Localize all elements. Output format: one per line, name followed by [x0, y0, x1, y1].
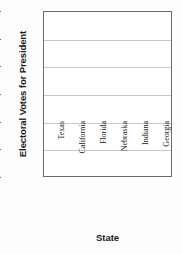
gridline-40 — [44, 67, 171, 68]
x-axis-title: State — [43, 232, 172, 243]
x-tick-label-indiana: Indiana — [140, 121, 151, 181]
y-tick-mark-40 — [0, 66, 1, 67]
gridline-50 — [44, 40, 171, 41]
y-tick-mark-0 — [0, 177, 1, 178]
y-tick-mark-50 — [0, 39, 1, 40]
x-tick-label-california: California — [77, 121, 88, 181]
x-tick-label-nebraska: Nebraska — [119, 121, 130, 181]
x-tick-label-texas: Texas — [56, 121, 67, 181]
y-axis-title: Electoral Votes for President — [16, 9, 30, 179]
y-tick-mark-30 — [0, 94, 1, 95]
x-tick-label-florida: Florida — [98, 121, 109, 181]
y-tick-mark-20 — [0, 122, 1, 123]
x-tick-label-georgia: Georgia — [161, 121, 172, 181]
y-tick-mark-60 — [0, 11, 1, 12]
gridline-30 — [44, 95, 171, 96]
y-tick-mark-10 — [0, 149, 1, 150]
bar-chart: Electoral Votes for President 60 50 40 3… — [0, 0, 182, 254]
